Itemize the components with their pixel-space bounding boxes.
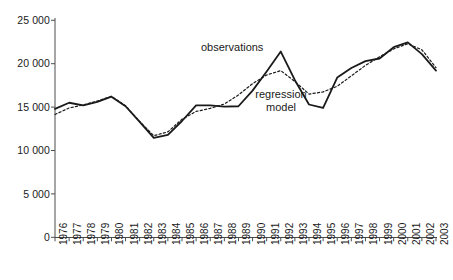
xtick-label-1984: 1984 xyxy=(172,223,182,245)
xtick-label-1997: 1997 xyxy=(355,223,365,245)
xtick-label-2000: 2000 xyxy=(398,223,408,245)
xtick-label-1993: 1993 xyxy=(299,223,309,245)
xtick-label-1988: 1988 xyxy=(228,223,238,245)
xtick-label-1996: 1996 xyxy=(341,223,351,245)
xtick-label-1978: 1978 xyxy=(87,223,97,245)
xtick-label-1979: 1979 xyxy=(101,223,111,245)
xtick-label-1999: 1999 xyxy=(384,223,394,245)
xtick-label-1998: 1998 xyxy=(369,223,379,245)
xtick-label-2001: 2001 xyxy=(412,223,422,245)
annotation-regression-model-line1: regression xyxy=(242,88,320,101)
xtick-label-1990: 1990 xyxy=(257,223,267,245)
xtick-label-1980: 1980 xyxy=(115,223,125,245)
xtick-label-1977: 1977 xyxy=(73,223,83,245)
xtick-label-1989: 1989 xyxy=(242,223,252,245)
xtick-label-1985: 1985 xyxy=(186,223,196,245)
xtick-label-1991: 1991 xyxy=(271,223,281,245)
xtick-label-2003: 2003 xyxy=(440,223,450,245)
annotation-observations: observations xyxy=(201,41,263,54)
xtick-label-1981: 1981 xyxy=(130,223,140,245)
xtick-label-1992: 1992 xyxy=(285,223,295,245)
xtick-label-2002: 2002 xyxy=(426,223,436,245)
annotation-regression-model-line2: model xyxy=(242,101,320,114)
line-chart: 25 000 20 000 15 000 10 000 5 000 0 1976… xyxy=(0,0,453,280)
xtick-label-1982: 1982 xyxy=(144,223,154,245)
xtick-label-1995: 1995 xyxy=(327,223,337,245)
xtick-label-1976: 1976 xyxy=(59,223,69,245)
annotation-regression-model: regression model xyxy=(242,88,320,113)
xtick-label-1987: 1987 xyxy=(214,223,224,245)
y-axis-ticks xyxy=(51,20,55,237)
xtick-label-1983: 1983 xyxy=(158,223,168,245)
xtick-label-1994: 1994 xyxy=(313,223,323,245)
xtick-label-1986: 1986 xyxy=(200,223,210,245)
